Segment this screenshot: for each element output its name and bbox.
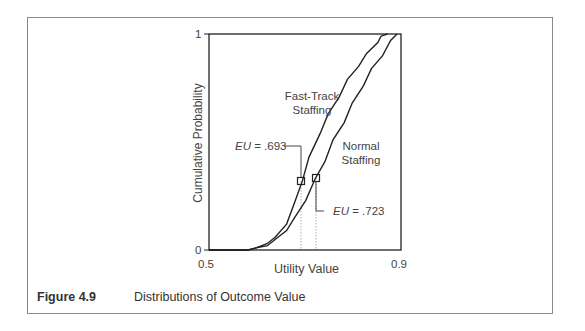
figure-number: Figure 4.9 xyxy=(37,290,134,304)
x-tick-label-min: 0.5 xyxy=(198,257,214,271)
normal-label: Normal Staffing xyxy=(339,139,383,167)
eu-fast-track-value: = .693 xyxy=(251,140,287,152)
eu-normal-value: = .723 xyxy=(349,205,385,217)
figure-title: Distributions of Outcome Value xyxy=(134,290,305,304)
y-tick-label-min: 0 xyxy=(195,243,201,257)
figure-caption: Figure 4.9Distributions of Outcome Value xyxy=(37,290,305,304)
x-axis-label: Utility Value xyxy=(274,262,339,276)
eu-normal-prefix: EU xyxy=(333,205,349,217)
normal-label-line1: Normal xyxy=(339,139,383,153)
y-axis-label: Cumulative Probability xyxy=(191,63,205,223)
y-tick-label-max: 1 xyxy=(195,27,201,41)
fast-track-label: Fast-Track Staffing xyxy=(284,89,340,117)
eu-normal-annotation: EU = .723 xyxy=(333,204,384,218)
eu-fast-track-leader xyxy=(284,146,301,177)
fast-track-label-line2: Staffing xyxy=(284,103,340,117)
eu-fast-track-annotation: EU = .693 xyxy=(235,139,286,153)
eu-normal-leader xyxy=(316,182,324,211)
normal-label-line2: Staffing xyxy=(339,153,383,167)
cdf-chart xyxy=(0,0,585,331)
eu-fast-track-prefix: EU xyxy=(235,140,251,152)
fast-track-label-line1: Fast-Track xyxy=(284,89,340,103)
x-tick-label-max: 0.9 xyxy=(391,257,407,271)
